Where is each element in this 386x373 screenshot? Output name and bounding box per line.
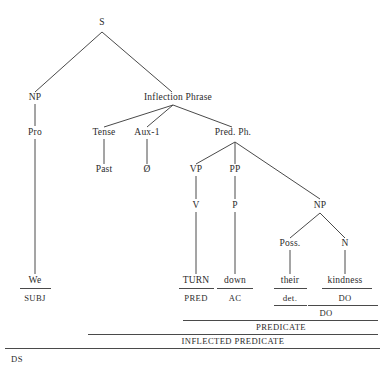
underline-down (217, 288, 253, 289)
function-ds: DS (11, 355, 23, 364)
node-s: S (99, 18, 104, 28)
branch-np-to-n (320, 213, 345, 238)
branch-predph-to-np (235, 142, 320, 199)
node-pred-ph: Pred. Ph. (215, 128, 251, 138)
function-pred: PRED (184, 294, 208, 303)
node-inflection-phrase: Inflection Phrase (144, 93, 212, 103)
branch-ip-to-tense (104, 105, 173, 127)
function-do-outer: DO (319, 309, 332, 318)
terminal-kindness: kindness (328, 276, 363, 286)
branch-ip-to-predph (173, 105, 232, 127)
terminal-turn: TURN (183, 276, 210, 286)
function-ac: AC (229, 294, 242, 303)
function-subj: SUBJ (24, 294, 46, 303)
overline-inflected-predicate (88, 334, 378, 335)
node-np-subject: NP (29, 93, 42, 103)
node-vp: VP (190, 165, 203, 175)
branch-predph-to-vp (196, 142, 235, 164)
terminal-their: their (281, 276, 299, 286)
node-zero-morpheme: Ø (143, 165, 150, 175)
underline-inflected-predicate (5, 348, 380, 349)
node-aux-1: Aux-1 (134, 128, 159, 138)
branch-s-to-inflection (102, 32, 172, 92)
underline-det (274, 305, 307, 306)
function-det: det. (283, 294, 297, 303)
function-predicate: PREDICATE (256, 323, 306, 332)
branch-ip-to-aux1 (147, 105, 173, 127)
node-pp: PP (230, 165, 241, 175)
branch-s-to-np (35, 32, 102, 92)
underline-their (274, 288, 307, 289)
function-inflected-predicate: INFLECTED PREDICATE (182, 337, 285, 346)
node-poss: Poss. (280, 239, 301, 249)
node-n: N (341, 239, 348, 249)
node-v: V (192, 201, 199, 211)
node-pro: Pro (28, 128, 42, 138)
underline-do-inner (308, 305, 378, 306)
branch-np-to-poss (290, 213, 320, 238)
node-np-object: NP (314, 201, 327, 211)
underline-kindness (322, 288, 372, 289)
terminal-we: We (29, 276, 42, 286)
node-p: P (232, 201, 237, 211)
underline-we (20, 288, 51, 289)
terminal-down: down (224, 276, 246, 286)
function-do-inner: DO (338, 294, 351, 303)
sentence-tree-diagram: S NP Inflection Phrase Pro Tense Aux-1 P… (0, 0, 386, 373)
overline-predicate (183, 320, 378, 321)
underline-turn (179, 288, 214, 289)
node-past: Past (96, 165, 113, 175)
node-tense: Tense (92, 128, 115, 138)
